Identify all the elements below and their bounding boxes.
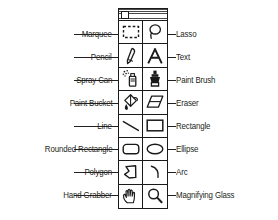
tool-button-rectangle[interactable] [143,115,167,138]
lasso-icon [146,23,164,41]
callout-leader-pencil [74,57,118,58]
polygon-icon [122,164,140,180]
callout-leader-polygon [74,172,118,173]
tool-grid [119,21,167,208]
tool-button-pencil[interactable] [119,44,143,67]
tool-button-marquee[interactable] [119,21,143,44]
tool-button-rounded-rectangle[interactable] [119,138,143,161]
tool-button-paint-brush[interactable] [143,68,167,91]
tool-button-lasso[interactable] [143,21,167,44]
callout-leader-rectangle [168,126,176,127]
tool-button-line[interactable] [119,115,143,138]
callout-leader-eraser [168,103,176,104]
tool-button-paint-bucket[interactable] [119,91,143,114]
callout-leader-lasso [168,34,176,35]
tool-button-text[interactable] [143,44,167,67]
line-icon [121,119,141,133]
callout-leader-ellipse [168,149,176,150]
callout-leader-arc [168,172,176,173]
pencil-icon [124,47,138,65]
tool-button-magnifying-glass[interactable] [143,185,167,208]
paint-bucket-icon [121,93,141,112]
callout-leader-line [74,126,118,127]
palette-title-bar[interactable] [119,9,167,21]
tool-button-eraser[interactable] [143,91,167,114]
eraser-icon [145,94,165,110]
rounded-rectangle-icon [121,142,141,156]
marquee-icon [121,24,141,40]
callout-leader-spray-can [74,80,118,81]
callout-label-text: Text [176,52,190,62]
callout-leader-paint-brush [168,80,176,81]
callout-leader-text [168,57,176,58]
arc-icon [146,164,164,180]
callout-leader-rounded-rect [74,149,118,150]
tool-button-hand-grabber[interactable] [119,185,143,208]
callout-label-eraser: Eraser [176,98,198,108]
tool-button-polygon[interactable] [119,161,143,184]
callout-label-paint-brush: Paint Brush [176,75,215,85]
tool-button-arc[interactable] [143,161,167,184]
ellipse-icon [145,142,165,156]
tool-palette-window [118,8,168,209]
hand-grabber-icon [121,187,140,205]
paint-brush-icon [146,69,164,88]
close-box-icon[interactable] [121,11,129,19]
callout-label-arc: Arc [176,167,187,177]
callout-leader-marquee [74,34,118,35]
callout-label-ellipse: Ellipse [176,144,198,154]
text-icon [146,47,164,65]
spray-can-icon [121,69,141,88]
callout-leader-paint-bucket [74,103,118,104]
magnifying-glass-icon [146,187,164,205]
tool-palette-figure: Marquee Pencil Spray Can Paint Bucket Li… [0,0,278,220]
callout-label-lasso: Lasso [176,29,196,39]
callout-leader-magnifying-glass [168,195,176,196]
callout-label-magnifying-glass: Magnifying Glass [176,190,234,200]
callout-leader-hand-grabber [74,195,118,196]
callout-label-rectangle: Rectangle [176,121,210,131]
tool-button-ellipse[interactable] [143,138,167,161]
tool-button-spray-can[interactable] [119,68,143,91]
rectangle-icon [145,118,165,133]
